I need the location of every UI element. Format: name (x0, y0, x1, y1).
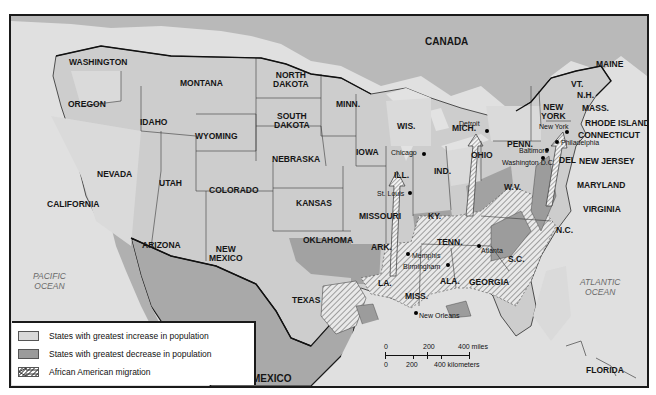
scale-tick (413, 355, 414, 359)
state-label-alabama: ALA. (440, 277, 460, 286)
state-label-south-dakota: SOUTHDAKOTA (274, 112, 310, 130)
scale-miles-400: 400 miles (458, 343, 488, 350)
state-label-new-york: NEWYORK (541, 103, 566, 121)
legend-label: States with greatest increase in populat… (49, 331, 209, 341)
new-york-increase (486, 106, 541, 141)
ocean-label-pacific: PACIFICOCEAN (33, 271, 66, 291)
state-label-iowa: IOWA (356, 148, 379, 157)
city-label-memphis: Memphis (412, 252, 440, 260)
state-label-south-carolina: S.C. (508, 255, 525, 264)
city-label-birmingham: Birmingham (403, 263, 440, 271)
scale-bar: 0 200 400 miles 0 200 400 kilometers (379, 341, 529, 381)
state-label-nevada: NEVADA (97, 170, 132, 179)
map-frame: CANADA MEXICO PACIFICOCEAN ATLANTICOCEAN… (9, 14, 649, 388)
city-marker-detroit (485, 129, 489, 133)
state-label-mississippi: MISS. (405, 292, 428, 301)
state-label-arizona: ARIZONA (142, 241, 181, 250)
legend-item-migration: African American migration (18, 365, 151, 379)
country-label-canada: CANADA (425, 36, 468, 47)
state-label-maine: MAINE (596, 60, 623, 69)
state-label-west-virginia: W.V. (504, 183, 521, 192)
state-label-montana: MONTANA (180, 79, 223, 88)
scale-km-0: 0 (384, 361, 388, 368)
map-legend: States with greatest increase in populat… (12, 321, 256, 385)
ocean-label-atlantic: ATLANTICOCEAN (580, 277, 620, 297)
legend-label: African American migration (49, 367, 151, 377)
city-marker-st-louis (408, 191, 412, 195)
state-label-wisconsin: WIS. (397, 122, 415, 131)
state-label-north-dakota: NORTHDAKOTA (273, 71, 309, 89)
city-marker-philadelphia (555, 140, 559, 144)
city-label-philadelphia: Philadelphia (561, 139, 599, 147)
state-label-washington: WASHINGTON (69, 58, 127, 67)
state-label-california: CALIFORNIA (47, 200, 99, 209)
scale-km-200: 200 (406, 361, 418, 368)
city-marker-chicago (422, 152, 426, 156)
state-label-north-carolina: N.C. (556, 226, 573, 235)
city-marker-new-orleans (414, 311, 418, 315)
state-label-kentucky: KY. (428, 212, 441, 221)
scale-tick (427, 352, 428, 359)
city-label-st-louis: St. Louis (377, 190, 404, 198)
state-label-massachusetts: MASS. (582, 104, 609, 113)
state-label-idaho: IDAHO (140, 118, 167, 127)
state-label-florida: FLORIDA (586, 366, 624, 375)
state-label-new-hampshire: N.H. (577, 91, 594, 100)
increase-swatch (18, 331, 39, 341)
state-label-tennessee: TENN. (437, 238, 463, 247)
state-label-louisiana: LA. (378, 279, 392, 288)
city-marker-birmingham (446, 263, 450, 267)
scale-tick (469, 352, 470, 359)
state-label-indiana: IND. (434, 167, 451, 176)
city-label-detroit: Detroit (459, 120, 480, 128)
scale-km-400: 400 kilometers (434, 361, 480, 368)
scale-tick (385, 352, 386, 359)
city-label-new-orleans: New Orleans (419, 312, 459, 320)
city-label-new-york: New York (539, 123, 569, 131)
decrease-swatch (18, 349, 39, 359)
migration-arrow-icon (18, 367, 39, 377)
city-label-baltimore: Baltimore (519, 147, 549, 155)
state-label-colorado: COLORADO (209, 186, 259, 195)
country-label-mexico: MEXICO (252, 373, 291, 384)
city-label-washington-dc: Washington D.C. (502, 159, 555, 167)
state-label-oklahoma: OKLAHOMA (303, 236, 353, 245)
state-label-vermont: VT. (571, 80, 583, 89)
scale-miles-0: 0 (384, 343, 388, 350)
state-label-arkansas: ARK. (371, 243, 392, 252)
legend-item-decrease: States with greatest decrease in populat… (18, 347, 212, 361)
state-label-rhode-island: RHODE ISLAND (585, 119, 649, 128)
legend-label: States with greatest decrease in populat… (49, 349, 212, 359)
legend-item-increase: States with greatest increase in populat… (18, 329, 209, 343)
state-label-nebraska: NEBRASKA (272, 155, 320, 164)
state-label-ohio: OHIO (471, 151, 493, 160)
scale-tick (441, 355, 442, 359)
state-label-delaware: DEL (559, 156, 576, 165)
state-label-maryland: MARYLAND (577, 181, 625, 190)
city-label-chicago: Chicago (391, 149, 417, 157)
state-label-georgia: GEORGIA (469, 278, 509, 287)
state-label-minnesota: MINN. (336, 100, 360, 109)
city-marker-memphis (406, 252, 410, 256)
state-label-oregon: OREGON (68, 100, 106, 109)
city-label-atlanta: Atlanta (481, 247, 503, 255)
state-label-new-mexico: NEWMEXICO (209, 245, 243, 263)
state-label-virginia: VIRGINIA (583, 205, 621, 214)
state-label-missouri: MISSOURI (359, 212, 401, 221)
state-label-wyoming: WYOMING (195, 132, 238, 141)
scale-miles-200: 200 (423, 343, 435, 350)
state-label-utah: UTAH (159, 179, 182, 188)
state-label-new-jersey: NEW JERSEY (579, 157, 635, 166)
state-label-illinois: ILL. (394, 171, 409, 180)
state-label-kansas: KANSAS (296, 199, 332, 208)
state-label-texas: TEXAS (292, 296, 320, 305)
